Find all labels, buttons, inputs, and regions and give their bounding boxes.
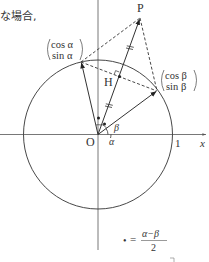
legend-numerator: α−β: [142, 228, 159, 239]
vector-b-label: cos β sin β: [162, 70, 197, 92]
angle-legend: • = α−β 2: [123, 228, 167, 253]
vector-a-top: cos α: [51, 39, 74, 50]
label-o: O: [86, 135, 95, 149]
angle-arc-beta: [106, 129, 108, 135]
vector-ob: [98, 92, 156, 135]
legend-denominator: 2: [151, 242, 156, 253]
vector-b-top: cos β: [165, 70, 187, 81]
vector-oa: [82, 63, 99, 135]
label-alpha: α: [109, 136, 115, 147]
vector-b-bottom: sin β: [166, 81, 186, 92]
caption-text: な場合,: [0, 9, 37, 23]
label-p: P: [137, 1, 144, 15]
paren-left: [162, 70, 165, 91]
vector-a-label: cos α sin α: [48, 39, 83, 61]
angle-dot-2: [103, 123, 106, 126]
paren-right: [194, 70, 197, 91]
label-unit-one: 1: [175, 137, 181, 149]
paren-right: [80, 39, 83, 60]
legend-dot: •: [123, 235, 127, 246]
angle-dot-1: [97, 117, 100, 120]
label-beta: β: [113, 122, 119, 133]
label-h: H: [104, 75, 113, 89]
point-h: [118, 75, 121, 78]
vector-a-bottom: sin α: [52, 50, 73, 61]
dashed-line-a-p: [81, 18, 140, 62]
label-x-axis: x: [199, 137, 205, 149]
paren-left: [48, 39, 51, 60]
right-angle-mark: [114, 71, 119, 75]
unit-circle-diagram: な場合, P H O α β 1 x cos α sin α: [0, 0, 209, 262]
legend-equals: =: [130, 233, 136, 245]
corner-mark: [170, 258, 174, 262]
tick-marks-hp: [126, 46, 134, 50]
